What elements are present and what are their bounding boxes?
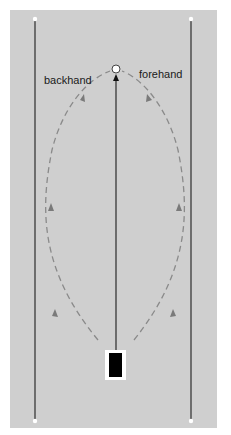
target-circle — [112, 65, 120, 73]
left-bottom-marker — [33, 419, 37, 423]
backhand-label: backhand — [44, 74, 92, 86]
left-top-marker — [33, 17, 37, 21]
arrow-icon — [80, 94, 85, 102]
right-top-marker — [189, 17, 193, 21]
forehand-path — [122, 71, 184, 340]
arrow-icon — [170, 309, 176, 317]
backhand-path — [46, 71, 110, 340]
arrow-icon — [176, 203, 182, 211]
arrow-icon — [48, 203, 54, 211]
right-bottom-marker — [189, 419, 193, 423]
court-diagram — [0, 0, 231, 435]
player-marker — [109, 353, 122, 377]
arrow-up-icon — [113, 74, 119, 81]
arrow-icon — [52, 309, 58, 317]
arrow-icon — [146, 94, 152, 102]
forehand-label: forehand — [139, 68, 182, 80]
